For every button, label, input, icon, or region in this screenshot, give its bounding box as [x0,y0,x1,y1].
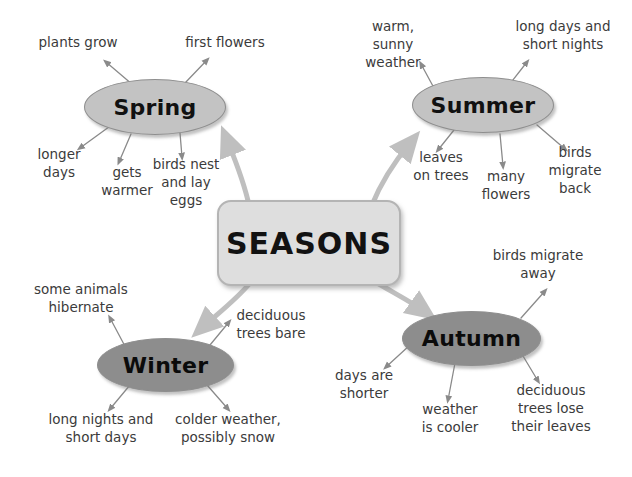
leaf-long-nights-and-short-days: long nights and short days [38,410,164,446]
leaf-warm-sunny-weather: warm, sunny weather [357,17,429,71]
season-node-spring-label: Spring [113,95,196,120]
season-node-autumn-label: Autumn [422,326,521,351]
leaf-leaves-on-trees: leaves on trees [402,148,480,184]
connector-autumn-birds-migrate-away [521,291,545,318]
season-node-spring[interactable]: Spring [84,79,226,135]
leaf-some-animals-hibernate: some animals hibernate [25,280,137,316]
leaf-many-flowers: many flowers [474,167,538,203]
connector-winter-colder-weather [207,385,228,409]
connector-summer-many-flowers [500,134,503,166]
leaf-days-are-shorter: days are shorter [323,366,405,402]
connector-spring-birds-nest [180,133,182,157]
leaf-plants-grow: plants grow [23,33,133,51]
leaf-first-flowers: first flowers [168,33,282,51]
connector-autumn-weather-is-cooler [448,363,455,400]
season-node-winter[interactable]: Winter [97,338,234,392]
leaf-deciduous-trees-bare: deciduous trees bare [224,306,318,342]
season-node-summer-label: Summer [431,93,536,118]
center-node-label: SEASONS [226,226,392,261]
season-node-summer[interactable]: Summer [412,77,554,133]
center-node-seasons[interactable]: SEASONS [217,200,401,286]
connector-autumn-deciduous-lose [523,356,538,381]
leaf-deciduous-trees-lose-their-leaves: deciduous trees lose their leaves [500,381,602,435]
season-node-winter-label: Winter [123,353,209,378]
connector-spring-first-flowers [185,60,207,83]
mind-map-canvas: SEASONS Spring Summer Autumn Winter plan… [0,0,632,477]
connector-winter-long-nights [110,385,130,409]
connector-center-spring [227,140,249,205]
connector-summer-leaves-on-trees [438,130,454,150]
leaf-longer-days: longer days [23,145,95,181]
leaf-weather-is-cooler: weather is cooler [411,400,489,436]
leaf-birds-migrate-back: birds migrate back [539,143,611,197]
leaf-colder-weather-possibly-snow: colder weather, possibly snow [167,410,289,446]
leaf-birds-migrate-away: birds migrate away [473,246,603,282]
season-node-autumn[interactable]: Autumn [402,311,541,366]
connector-spring-gets-warmer [119,134,131,162]
leaf-birds-nest-and-lay-eggs: birds nest and lay eggs [143,155,229,209]
leaf-long-days-and-short-nights: long days and short nights [497,17,629,53]
